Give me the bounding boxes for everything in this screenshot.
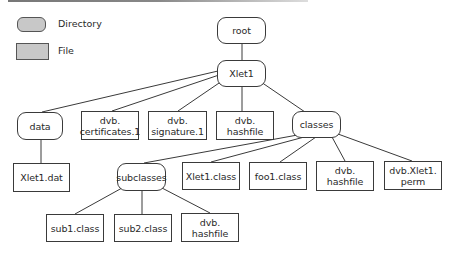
dir-subclasses: subclasses [117, 163, 166, 191]
file-foo1-class: foo1.class [249, 162, 307, 190]
file-dvb-hashfile-classes: dvb. hashfile [316, 161, 374, 191]
file-sub1-class: sub1.class [46, 214, 104, 242]
file-dvb-certificates-1: dvb. certificates.1 [81, 111, 139, 140]
file-dvb-xlet1-perm: dvb.Xlet1. perm [384, 161, 442, 190]
file-xlet1-dat: Xlet1.dat [13, 163, 70, 192]
file-xlet1-class: Xlet1.class [182, 162, 240, 190]
dir-root: root [217, 17, 266, 44]
dir-xlet1: Xlet1 [217, 60, 266, 87]
file-dvb-hashfile-subclasses: dvb. hashfile [181, 213, 239, 242]
dir-classes: classes [292, 111, 341, 138]
file-sub2-class: sub2.class [114, 214, 172, 242]
file-dvb-hashfile-xlet1: dvb. hashfile [216, 111, 274, 140]
file-dvb-signature-1: dvb. signature.1 [148, 111, 207, 140]
dir-data: data [17, 112, 63, 140]
